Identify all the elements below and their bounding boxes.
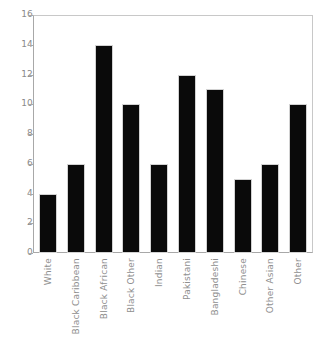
y-tick-mark [28, 45, 33, 46]
bar [178, 75, 196, 254]
y-tick-mark [28, 104, 33, 105]
y-tick-mark [28, 134, 33, 135]
bar-chart: 0246810121416 WhiteBlack CaribbeanBlack … [0, 0, 332, 347]
x-tick-label: Other Asian [265, 258, 275, 313]
bar [206, 89, 224, 253]
x-tick-label-slot: Black African [91, 256, 117, 334]
x-tick-label-slot: Other Asian [257, 256, 283, 334]
x-tick-label-slot: Other [285, 256, 311, 334]
x-tick-label: Chinese [238, 258, 248, 295]
x-tick-label-slot: Indian [146, 256, 172, 334]
y-tick-mark [28, 75, 33, 76]
x-tick-label: Black Other [126, 258, 136, 313]
caption-strip [8, 342, 308, 347]
x-tick-label-slot: Black Caribbean [63, 256, 89, 334]
x-tick-label-slot: Chinese [230, 256, 256, 334]
y-tick-mark [28, 223, 33, 224]
bar [67, 164, 85, 253]
y-tick-mark [28, 15, 33, 16]
y-tick-mark [28, 194, 33, 195]
bar [234, 179, 252, 253]
x-axis-labels: WhiteBlack CaribbeanBlack AfricanBlack O… [34, 256, 312, 336]
bar [289, 104, 307, 253]
bar [261, 164, 279, 253]
y-axis: 0246810121416 [0, 0, 33, 347]
bar [150, 164, 168, 253]
bars-layer [34, 15, 312, 253]
y-tick-mark [28, 253, 33, 254]
x-tick-label-slot: White [35, 256, 61, 334]
x-tick-label: Black Caribbean [71, 258, 81, 334]
bar [122, 104, 140, 253]
x-tick-label-slot: Black Other [118, 256, 144, 334]
bar [39, 194, 57, 254]
x-tick-label: Bangladeshi [210, 258, 220, 315]
x-tick-label-slot: Bangladeshi [202, 256, 228, 334]
x-tick-label: Black African [99, 258, 109, 319]
x-tick-label: Other [293, 258, 303, 285]
bar [95, 45, 113, 253]
x-tick-label: Pakistani [182, 258, 192, 300]
x-tick-label-slot: Pakistani [174, 256, 200, 334]
y-tick-mark [28, 164, 33, 165]
x-tick-label: Indian [154, 258, 164, 287]
x-tick-label: White [43, 258, 53, 285]
